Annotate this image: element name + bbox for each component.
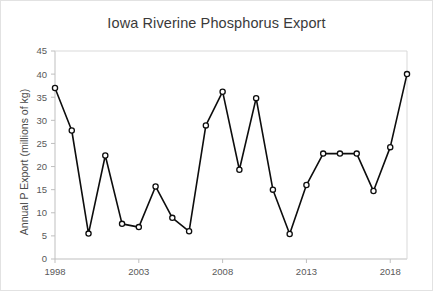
y-tick-label: 5 [42, 230, 47, 241]
data-point [337, 151, 342, 156]
data-point [321, 151, 326, 156]
data-point [203, 123, 208, 128]
chart-container: Iowa Riverine Phosphorus Export Annual P… [0, 0, 433, 291]
data-point [86, 231, 91, 236]
y-tick-label: 0 [42, 253, 47, 264]
x-tick-label: 2013 [296, 266, 317, 277]
x-tick-label: 1998 [44, 266, 65, 277]
data-point [119, 221, 124, 226]
y-tick-label: 25 [36, 138, 47, 149]
data-point [371, 188, 376, 193]
y-axis-ticks: 051015202530354045 [36, 45, 55, 264]
y-tick-label: 20 [36, 161, 47, 172]
x-tick-label: 2008 [212, 266, 233, 277]
data-point [170, 215, 175, 220]
data-point [237, 167, 242, 172]
y-tick-label: 35 [36, 92, 47, 103]
data-point [187, 229, 192, 234]
data-point [153, 184, 158, 189]
data-point [69, 128, 74, 133]
x-tick-label: 2003 [128, 266, 149, 277]
data-point [304, 182, 309, 187]
data-point [254, 96, 259, 101]
y-tick-label: 30 [36, 115, 47, 126]
data-point [52, 85, 57, 90]
y-tick-label: 40 [36, 69, 47, 80]
data-point [404, 72, 409, 77]
x-tick-label: 2018 [380, 266, 401, 277]
data-point-markers [52, 72, 409, 237]
data-point [103, 153, 108, 158]
plot-area: 051015202530354045 19982003200820132018 [1, 1, 433, 291]
data-point [270, 187, 275, 192]
y-tick-label: 45 [36, 45, 47, 56]
y-tick-label: 15 [36, 184, 47, 195]
data-point [388, 145, 393, 150]
x-axis-ticks: 19982003200820132018 [44, 259, 407, 277]
data-point [287, 231, 292, 236]
data-point [220, 89, 225, 94]
data-point [354, 151, 359, 156]
y-tick-label: 10 [36, 207, 47, 218]
data-point [136, 225, 141, 230]
